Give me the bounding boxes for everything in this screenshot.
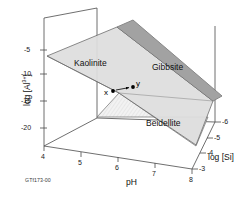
- z-tick-label--5: -5: [214, 134, 220, 141]
- figure-caption-id: GTf173-00: [25, 178, 51, 183]
- x-tick-label-4: 4: [41, 153, 45, 160]
- point-label-x: x: [104, 89, 108, 97]
- y-axis-ticks: [40, 50, 47, 128]
- phase-label-gibbsite: Gibbsite: [152, 63, 183, 72]
- box-top-left-edge: [44, 8, 97, 18]
- phase-label-beidellite: Beidellite: [146, 119, 181, 128]
- z-tick-label--3: -3: [199, 165, 205, 172]
- x-tick-label-6: 6: [115, 164, 119, 171]
- point-marker-y: [131, 85, 135, 89]
- x-tick-label-8: 8: [189, 176, 193, 183]
- y-axis-label-superscript: 3+: [21, 76, 27, 82]
- point-marker-x: [111, 89, 115, 93]
- y-tick-label--5: -5: [24, 46, 30, 53]
- z-axis-label: log [Si]: [208, 153, 234, 162]
- y-tick-label--10: -10: [21, 70, 31, 77]
- box-floor-left-edge: [44, 118, 97, 146]
- phase-label-kaolinite: Kaolinite: [74, 59, 107, 68]
- y-tick-label--15: -15: [21, 97, 31, 104]
- z-tick-label--6: -6: [222, 118, 228, 125]
- point-label-y: y: [136, 80, 140, 88]
- figure-3d-phase-diagram: log [Al3+] -5 -10 -15 -20 4 5 6 7 8 pH -…: [0, 0, 247, 201]
- x-tick-label-7: 7: [152, 170, 156, 177]
- y-tick-label--20: -20: [21, 124, 31, 131]
- x-tick-label-5: 5: [78, 159, 82, 166]
- surface-kaolinite: [47, 27, 213, 145]
- plot-canvas: [0, 0, 247, 201]
- x-axis-label: pH: [126, 178, 137, 187]
